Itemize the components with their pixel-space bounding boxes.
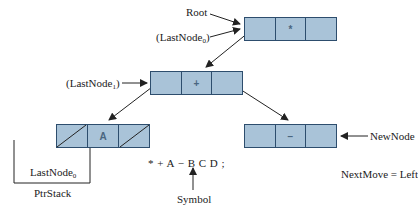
plus-left-cell bbox=[151, 72, 182, 94]
a-left-cell bbox=[57, 125, 88, 147]
lastnode1-text: (LastNode bbox=[66, 77, 112, 89]
plus-value-cell: + bbox=[182, 72, 213, 94]
a-value-cell: A bbox=[88, 125, 119, 147]
stack-entry-label: LastNode0 bbox=[30, 167, 76, 180]
nextmove-label: NextMove = Left bbox=[341, 169, 418, 180]
root-value-cell: * bbox=[276, 18, 307, 40]
plus-right-cell bbox=[212, 72, 242, 94]
a-right-cell bbox=[119, 125, 149, 147]
root-label: Root bbox=[186, 7, 207, 18]
minus-right-cell bbox=[306, 125, 336, 147]
root-node: * bbox=[244, 17, 337, 41]
lastnode1-label: (LastNode1) bbox=[66, 78, 120, 91]
lastnode0-top-close: ) bbox=[206, 31, 210, 43]
lastnode0-arrow bbox=[210, 29, 240, 37]
minus-node: − bbox=[244, 124, 337, 148]
lastnode1-close: ) bbox=[116, 77, 120, 89]
root-right-cell bbox=[306, 18, 336, 40]
root-left-cell bbox=[245, 18, 276, 40]
a-node: A bbox=[56, 124, 150, 148]
ptrstack-label: PtrStack bbox=[34, 188, 71, 199]
newnode-label: NewNode bbox=[370, 131, 415, 142]
expression-label: * + A − B C D ; bbox=[148, 158, 225, 169]
stack-entry-sub: 0 bbox=[73, 172, 77, 180]
stack-entry-text: LastNode bbox=[30, 166, 73, 178]
minus-left-cell bbox=[245, 125, 276, 147]
plus-node: + bbox=[150, 71, 243, 95]
minus-value-cell: − bbox=[276, 125, 307, 147]
lastnode0-top-text: (LastNode bbox=[156, 31, 202, 43]
symbol-label: Symbol bbox=[177, 194, 211, 205]
lastnode0-top-label: (LastNode0) bbox=[156, 32, 210, 45]
root-arrow bbox=[210, 14, 240, 24]
